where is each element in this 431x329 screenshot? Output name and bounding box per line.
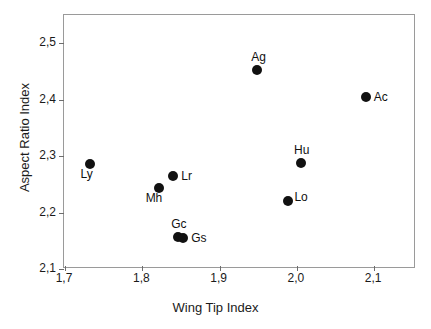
data-point-marker <box>178 233 188 243</box>
y-tick-label: 2,5 <box>39 36 56 49</box>
data-point-label: Ly <box>81 168 93 181</box>
data-point-marker <box>252 65 262 75</box>
y-tick-label: 2,2 <box>39 205 56 218</box>
x-tick-label: 1,9 <box>210 272 227 285</box>
x-axis-title: Wing Tip Index <box>0 300 431 315</box>
x-tick-label: 2,0 <box>288 272 305 285</box>
data-point-marker <box>283 196 293 206</box>
y-tick-mark <box>59 43 64 44</box>
plot-area: LyMhLrGcGsAgLoHuAc <box>63 14 415 268</box>
data-point-marker <box>361 92 371 102</box>
x-tick-label: 2,1 <box>365 272 382 285</box>
data-point-label: Hu <box>294 144 309 157</box>
scatter-plot-figure: Aspect Ratio Index 2,12,22,32,42,5 LyMhL… <box>0 0 431 329</box>
y-tick-mark <box>59 269 64 270</box>
data-point-label: Ac <box>374 91 388 104</box>
x-tick-label: 1,8 <box>133 272 150 285</box>
y-tick-label: 2,1 <box>39 262 56 275</box>
y-tick-label: 2,4 <box>39 92 56 105</box>
data-point-label: Lo <box>294 191 307 204</box>
y-tick-mark <box>59 100 64 101</box>
y-tick-mark <box>59 156 64 157</box>
data-point-label: Lr <box>181 169 192 182</box>
data-point-label: Mh <box>146 192 163 205</box>
data-point-marker <box>168 171 178 181</box>
data-point-label: Ag <box>251 51 266 64</box>
x-tick-label: 1,7 <box>56 272 73 285</box>
data-point-label: Gs <box>191 232 206 245</box>
data-point-marker <box>296 158 306 168</box>
y-tick-label: 2,3 <box>39 149 56 162</box>
y-axis-title: Aspect Ratio Index <box>17 28 32 248</box>
data-point-label: Gc <box>171 218 186 231</box>
y-tick-mark <box>59 213 64 214</box>
